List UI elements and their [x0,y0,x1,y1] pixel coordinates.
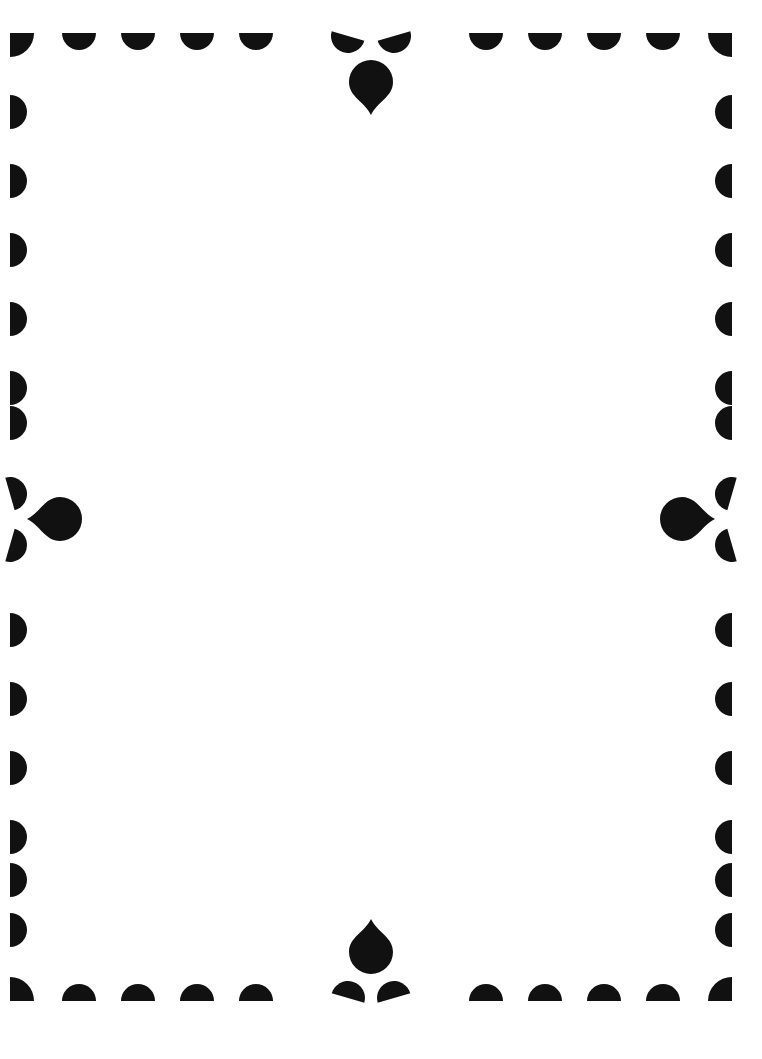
content-area [40,60,722,975]
page-canvas: Scalloped Teardrop Frame [0,0,762,1059]
